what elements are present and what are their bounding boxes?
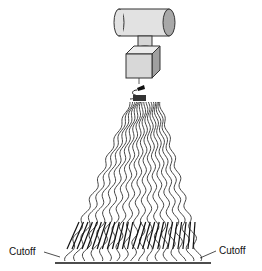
cutoff-right-leader xyxy=(200,251,216,258)
cutoff-label-left: Cutoff xyxy=(9,247,36,257)
diagram-figure xyxy=(0,0,262,271)
cutoff-label-right: Cutoff xyxy=(219,246,246,256)
strand-fan xyxy=(65,102,202,261)
cut-marks xyxy=(67,222,195,249)
cylinder-motor-icon xyxy=(114,9,175,36)
nozzle-tip-icon xyxy=(130,78,146,101)
cube-housing-icon xyxy=(126,46,160,78)
cutoff-left-leader xyxy=(44,252,60,257)
